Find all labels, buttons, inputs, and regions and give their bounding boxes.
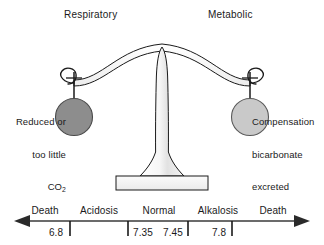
right-pan-label-line-2: bicarbonate [252, 150, 324, 161]
fulcrum-base [116, 176, 208, 190]
left-pan-label-formula: CO [48, 181, 62, 192]
left-pan-label: Reduced or too little CO2 [4, 95, 66, 215]
ph-tick-value-7-45: 7.45 [158, 227, 188, 239]
right-pan-label-line-3: excreted [252, 182, 324, 193]
axis-arrow-right [294, 215, 310, 227]
acid-base-balance-figure: Respiratory Metabolic Reduced or too lit… [0, 0, 324, 245]
heading-respiratory: Respiratory [64, 9, 117, 21]
left-pan-label-line-2: too little [4, 150, 66, 161]
axis-arrow-left [14, 215, 30, 227]
ph-zone-normal: Normal [134, 205, 184, 217]
ph-zone-acidosis: Acidosis [72, 205, 126, 217]
ph-tick-value-6-8: 6.8 [42, 227, 70, 239]
ph-zone-death-right: Death [252, 205, 294, 217]
ph-tick-value-7-8: 7.8 [206, 227, 232, 239]
fulcrum-needle [140, 47, 184, 176]
heading-metabolic: Metabolic [208, 9, 253, 21]
ph-zone-alkalosis: Alkalosis [190, 205, 246, 217]
left-pan-label-subscript: 2 [62, 186, 66, 193]
left-pan-label-line-1: Reduced or [4, 117, 66, 128]
ph-tick-value-7-35: 7.35 [128, 227, 158, 239]
left-pan-label-line-3: CO2 [4, 182, 66, 193]
right-pan-label: Compensation bicarbonate excreted [252, 95, 324, 215]
ph-axis-line [14, 215, 310, 227]
ph-zone-death-left: Death [24, 205, 66, 217]
right-pan-label-line-1: Compensation [252, 117, 324, 128]
